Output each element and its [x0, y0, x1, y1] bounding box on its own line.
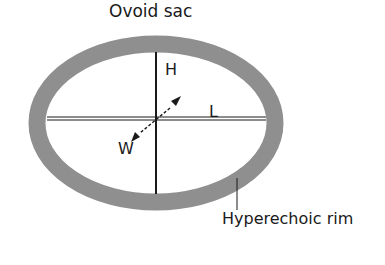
arrowhead-up-right-icon: [171, 96, 181, 106]
width-label: W: [118, 141, 134, 157]
diagram-title: Ovoid sac: [109, 3, 192, 20]
length-label: L: [209, 104, 218, 120]
height-label: H: [165, 62, 177, 78]
hyperechoic-rim-label: Hyperechoic rim: [222, 211, 353, 227]
